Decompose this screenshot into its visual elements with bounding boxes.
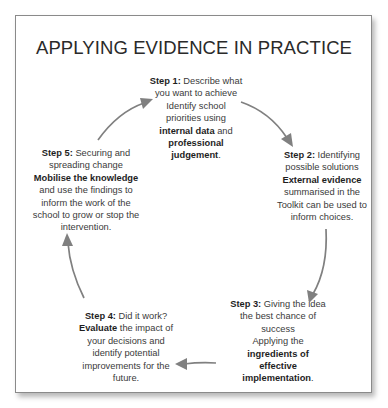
body-text: possible solutions [285,162,358,172]
body-text: Giving the idea [261,299,326,309]
emphasis-text: judgement [171,150,218,160]
emphasis-text: Step 5: [42,148,73,158]
emphasis-text: Step 1: [150,76,181,86]
step-2-line-2: possible solutions [266,161,378,173]
body-text: priorities using [166,113,226,123]
body-text: you want to achieve [155,88,237,98]
emphasis-text: internal data [159,126,214,136]
body-text: spreading change [49,160,123,170]
body-text: success [261,324,295,334]
step-4-line-5: improvements for the [70,360,182,372]
step-5-line-3: Mobilise the knowledge [20,172,152,184]
body-text: and [215,126,233,136]
step-3-line-5: ingredients of [222,348,334,360]
body-text: Applying the [252,336,303,346]
step-2-line-3: External evidence [266,174,378,186]
emphasis-text: Step 4: [85,311,116,321]
emphasis-text: Step 3: [230,299,261,309]
emphasis-text: Mobilise the knowledge [34,173,138,183]
step-1-line-4: priorities using [140,112,252,124]
step-4-box: Step 4: Did it work?Evaluate the impact … [70,310,182,384]
step-2-line-6: inform choices. [266,211,378,223]
body-text: Identify school [166,101,225,111]
step-1-line-3: Identify school [140,100,252,112]
step-5-line-1: Step 5: Securing and [20,147,152,159]
step-4-line-6: future. [70,372,182,384]
body-text: future. [113,373,139,383]
body-text: improvements for the [82,361,169,371]
body-text: inform choices. [291,212,354,222]
step-2-line-4: summarised in the [266,186,378,198]
emphasis-text: professional [168,138,223,148]
step-1-line-1: Step 1: Describe what [140,75,252,87]
step-3-box: Step 3: Giving the ideathe best chance o… [222,298,334,385]
step-2-box: Step 2: Identifyingpossible solutionsExt… [266,149,378,223]
step-1-line-2: you want to achieve [140,87,252,99]
body-text: Identifying [315,150,360,160]
step-3-line-2: the best chance of [222,310,334,322]
step-4-line-1: Step 4: Did it work? [70,310,182,322]
body-text: school to grow or stop the [33,210,139,220]
step-1-line-7: judgement. [140,149,252,161]
step-4-line-4: identify potential [70,347,182,359]
step-4-line-3: your decisions and [70,335,182,347]
step-5-line-5: inform the work of the [20,197,152,209]
body-text: Did it work? [116,311,167,321]
step-5-line-6: school to grow or stop the [20,209,152,221]
body-text: identify potential [92,348,159,358]
body-text: intervention. [61,222,112,232]
step-3-line-4: Applying the [222,335,334,347]
step-5-line-2: spreading change [20,159,152,171]
emphasis-text: ingredients of [247,349,308,359]
body-text: summarised in the [284,187,360,197]
step-3-line-6: effective [222,360,334,372]
step-5-line-7: intervention. [20,221,152,233]
emphasis-text: implementation [242,373,311,383]
body-text: inform the work of the [41,198,130,208]
step-1-box: Step 1: Describe whatyou want to achieve… [140,75,252,162]
step-1-line-6: professional [140,137,252,149]
body-text: . [218,150,221,160]
step-5-line-4: and use the findings to [20,184,152,196]
step-2-line-5: Toolkit can be used to [266,199,378,211]
body-text: Toolkit can be used to [277,200,367,210]
step-1-line-5: internal data and [140,125,252,137]
step-3-line-7: implementation. [222,372,334,384]
body-text: . [311,373,314,383]
body-text: your decisions and [87,336,165,346]
step-2-line-1: Step 2: Identifying [266,149,378,161]
body-text: Securing and [73,148,130,158]
step-3-line-3: success [222,323,334,335]
step-4-line-2: Evaluate the impact of [70,322,182,334]
body-text: and use the findings to [39,185,133,195]
emphasis-text: External evidence [282,175,361,185]
step-5-box: Step 5: Securing andspreading changeMobi… [20,147,152,234]
emphasis-text: Step 2: [284,150,315,160]
emphasis-text: Evaluate [79,323,117,333]
body-text: the best chance of [240,311,316,321]
diagram-title: APPLYING EVIDENCE IN PRACTICE [0,37,388,59]
body-text: the impact of [117,323,173,333]
emphasis-text: effective [259,361,297,371]
body-text: Describe what [181,76,243,86]
step-3-line-1: Step 3: Giving the idea [222,298,334,310]
